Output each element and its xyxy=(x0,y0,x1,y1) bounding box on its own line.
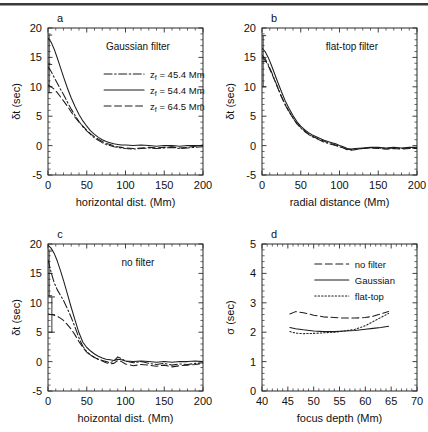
annotation-c: no filter xyxy=(122,257,155,268)
curve-c-2 xyxy=(48,314,203,367)
x-axis-label-a: horizontal dist. (Mm) xyxy=(76,196,176,208)
y-axis-label-b: δt (sec) xyxy=(224,83,236,120)
legend-label-0: no filter xyxy=(355,259,386,270)
curves-b xyxy=(260,36,417,151)
panel-label-b: b xyxy=(271,12,277,24)
x-tick-label: 40 xyxy=(256,395,268,407)
error-bar-c-0 xyxy=(46,251,52,296)
annotation-a: Gaussian filter xyxy=(106,41,171,52)
x-tick-label: 55 xyxy=(333,395,345,407)
y-tick-label: 10 xyxy=(30,297,42,309)
x-tick-label: 100 xyxy=(116,395,134,407)
x-tick-label: 100 xyxy=(116,179,134,191)
y-tick-label: 3 xyxy=(250,297,256,309)
panel-label-d: d xyxy=(271,228,277,240)
x-tick-label: 0 xyxy=(45,395,51,407)
legend-d: no filterGaussianflat-top xyxy=(315,259,395,302)
x-tick-label: 200 xyxy=(194,395,212,407)
y-tick-label: 10 xyxy=(30,81,42,93)
y-tick-label: -5 xyxy=(246,169,256,181)
x-tick-label: 45 xyxy=(282,395,294,407)
curve-b-0 xyxy=(262,55,417,150)
y-tick-label: -5 xyxy=(32,169,42,181)
x-tick-label: 70 xyxy=(411,395,423,407)
y-tick-label: 5 xyxy=(250,238,256,250)
scan-artifact-line-secondary xyxy=(0,5,428,6)
x-tick-label: 50 xyxy=(81,179,93,191)
x-tick-label: 65 xyxy=(385,395,397,407)
legend-a: zf = 45.4 Mmzf = 54.4 Mmzf = 64.5 Mm xyxy=(104,69,205,114)
panel-label-c: c xyxy=(57,228,63,240)
x-tick-label: 0 xyxy=(45,179,51,191)
y-tick-label: 15 xyxy=(30,51,42,63)
plot-frame-d xyxy=(262,244,417,391)
x-axis-label-c: hoizontal dist. (Mm) xyxy=(78,412,174,424)
x-tick-label: 150 xyxy=(369,179,387,191)
y-tick-label: 5 xyxy=(250,110,256,122)
x-tick-label: 0 xyxy=(259,179,265,191)
x-axis-label-b: radial distance (Mm) xyxy=(290,196,390,208)
y-tick-label: 5 xyxy=(36,326,42,338)
y-axis-label-a: δt (sec) xyxy=(10,83,22,120)
four-panel-figure: 050100150200-505101520ahorizontal dist. … xyxy=(0,0,428,432)
panel-label-a: a xyxy=(57,12,64,24)
x-tick-label: 200 xyxy=(194,179,212,191)
y-axis-label-c: δt (sec) xyxy=(10,299,22,336)
y-tick-label: 5 xyxy=(36,110,42,122)
curve-c-0 xyxy=(48,260,203,365)
curve-d-1 xyxy=(290,326,389,331)
figure-root: 050100150200-505101520ahorizontal dist. … xyxy=(0,0,428,432)
x-tick-label: 100 xyxy=(330,179,348,191)
y-tick-label: 0 xyxy=(250,385,256,397)
panel-a: 050100150200-505101520ahorizontal dist. … xyxy=(10,12,212,208)
x-tick-label: 50 xyxy=(81,395,93,407)
x-axis-label-d: focus depth (Mm) xyxy=(297,412,383,424)
annotation-b: flat-top filter xyxy=(326,41,379,52)
y-tick-label: 0 xyxy=(36,140,42,152)
y-tick-label: 20 xyxy=(30,22,42,34)
y-tick-label: 0 xyxy=(36,356,42,368)
legend-label-1: zf = 54.4 Mm xyxy=(150,85,205,98)
y-tick-label: 0 xyxy=(250,140,256,152)
curve-b-1 xyxy=(262,48,417,149)
y-axis-label-d: σ (sec) xyxy=(224,300,236,334)
x-tick-label: 50 xyxy=(295,179,307,191)
legend-label-2: flat-top xyxy=(355,291,384,302)
x-tick-label: 150 xyxy=(155,179,173,191)
legend-label-0: zf = 45.4 Mm xyxy=(150,69,205,82)
x-tick-label: 150 xyxy=(155,395,173,407)
y-tick-label: 10 xyxy=(244,81,256,93)
x-tick-label: 200 xyxy=(408,179,426,191)
y-tick-label: 15 xyxy=(30,267,42,279)
curves-d xyxy=(290,312,389,334)
error-bar-b-0 xyxy=(260,36,266,87)
y-tick-label: 15 xyxy=(244,51,256,63)
legend-label-2: zf = 64.5 Mm xyxy=(150,101,205,114)
x-tick-label: 60 xyxy=(359,395,371,407)
y-tick-label: -5 xyxy=(32,385,42,397)
curve-d-0 xyxy=(290,312,389,318)
y-tick-label: 20 xyxy=(244,22,256,34)
error-bar-c-1 xyxy=(49,297,55,332)
panel-c: 050100150200-505101520choizontal dist. (… xyxy=(10,228,212,424)
panel-d: 40455055606570012345dfocus depth (Mm)σ (… xyxy=(224,228,423,424)
legend-label-1: Gaussian xyxy=(355,275,395,286)
y-tick-label: 4 xyxy=(250,267,256,279)
y-tick-label: 2 xyxy=(250,326,256,338)
panel-b: 050100150200-505101520bradial distance (… xyxy=(224,12,426,208)
x-tick-label: 50 xyxy=(308,395,320,407)
y-tick-label: 1 xyxy=(250,356,256,368)
y-tick-label: 20 xyxy=(30,238,42,250)
